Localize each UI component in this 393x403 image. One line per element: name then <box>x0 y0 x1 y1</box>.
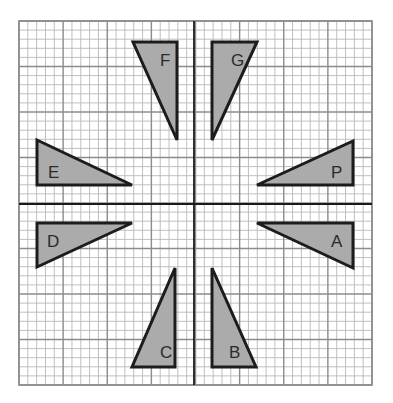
triangle-f: F <box>133 42 177 140</box>
triangle-label: G <box>231 51 244 70</box>
triangle-label: D <box>47 232 59 251</box>
triangle-c: C <box>132 268 175 367</box>
triangle-label: C <box>160 343 172 362</box>
triangle-d: D <box>37 223 132 267</box>
triangle-label: P <box>331 163 342 182</box>
triangle-a: A <box>257 223 353 268</box>
triangle-label: F <box>160 51 170 70</box>
triangle-g: G <box>212 42 257 140</box>
triangle-shape <box>133 42 177 140</box>
triangle-e: E <box>37 140 132 185</box>
coordinate-grid-diagram: FGEPDACB <box>0 0 393 403</box>
triangle-label: A <box>331 232 343 251</box>
triangle-b: B <box>212 268 256 367</box>
triangle-label: B <box>229 343 240 362</box>
triangle-p: P <box>257 141 353 185</box>
triangle-label: E <box>48 163 59 182</box>
